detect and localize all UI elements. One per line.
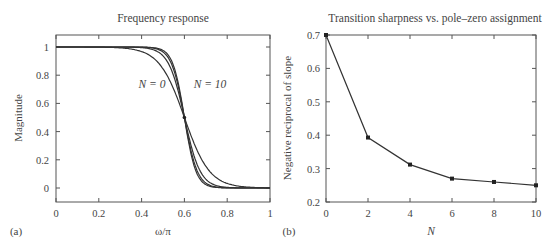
panel-a-frequency-response: Frequency response 00.20.40.60.8100.20.4… [10,12,273,238]
series-line-b [324,33,538,187]
axes-box-b [326,35,536,202]
crossing-marker [183,116,187,120]
data-point-marker [534,183,538,187]
x-tick-label: 8 [491,208,496,219]
data-point-marker [408,163,412,167]
axes-box-a [56,35,270,202]
x-tick-label: 2 [365,208,370,219]
y-tick-label: 0.8 [36,70,49,81]
y-tick-label: 0 [44,183,49,194]
y-tick-label: 0.7 [307,30,320,41]
chart-title-b: Transition sharpness vs. pole–zero assig… [328,12,542,25]
annotation-n10: N = 10 [193,78,227,90]
x-tick-label: 6 [449,208,454,219]
curves-a [56,47,270,188]
data-point-marker [324,33,328,37]
x-tick-label: 0.2 [92,208,105,219]
x-tick-label: 0.4 [135,208,149,219]
y-axis-label-a: Magnitude [12,94,24,142]
data-point-marker [492,180,496,184]
data-line [326,35,536,185]
y-tick-label: 0.2 [307,197,320,208]
y-tick-label: 0.3 [307,164,320,175]
y-tick-label: 0.5 [307,97,320,108]
y-tick-label: 1 [44,42,49,53]
x-tick-label: 10 [531,208,542,219]
data-point-marker [450,177,454,181]
panel-b-transition-sharpness: Transition sharpness vs. pole–zero assig… [281,12,542,238]
x-tick-label: 4 [407,208,413,219]
chart-title-a: Frequency response [117,12,209,25]
x-tick-label: 0 [53,208,58,219]
y-tick-label: 0.6 [36,98,49,109]
ticks-b: 02468100.20.30.40.50.60.7 [307,30,541,219]
x-tick-label: 0.8 [221,208,234,219]
x-axis-label-a: ω/π [155,225,171,237]
x-tick-label: 1 [267,208,272,219]
ticks-a: 00.20.40.60.8100.20.40.60.81 [36,35,273,219]
x-axis-label-b: N [426,225,436,237]
y-tick-label: 0.2 [36,155,49,166]
x-tick-label: 0.6 [178,208,191,219]
x-tick-label: 0 [323,208,328,219]
panel-label-b: (b) [283,225,296,238]
y-tick-label: 0.6 [307,63,320,74]
figure: Frequency response 00.20.40.60.8100.20.4… [0,0,559,245]
panel-label-a: (a) [10,225,23,238]
data-point-marker [366,136,370,140]
y-tick-label: 0.4 [307,130,321,141]
y-tick-label: 0.4 [36,127,50,138]
curve-N=0 [56,47,270,188]
annotation-n0: N = 0 [138,78,166,90]
y-axis-label-b: Negative reciprocal of slope [281,56,293,180]
